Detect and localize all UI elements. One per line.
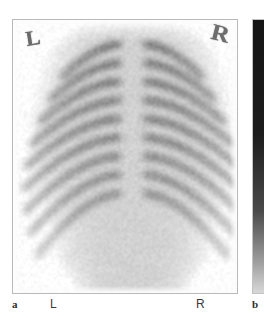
caption-row: a L R b	[0, 296, 264, 318]
bone-scan-image	[13, 20, 237, 293]
scintigram-panel: L R	[12, 19, 238, 294]
panel-b-caption-label: b	[252, 296, 258, 312]
panel-a-caption-label: a	[12, 296, 18, 312]
figure-root: L R a L R b	[0, 0, 264, 318]
orientation-label-right: R	[196, 296, 205, 312]
grayscale-colorbar-panel	[252, 19, 264, 294]
orientation-label-left: L	[50, 296, 57, 312]
colorbar-gradient	[253, 20, 264, 293]
